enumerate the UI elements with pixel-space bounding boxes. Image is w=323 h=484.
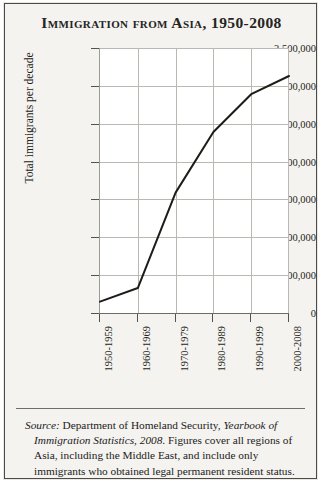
figure-panel: Immigration from Asia, 1950-2008 0500,00… — [4, 3, 317, 479]
x-axis-tick-mark — [212, 314, 213, 322]
x-axis-tick-mark — [250, 314, 251, 322]
y-axis-tick-mark — [91, 124, 99, 125]
x-axis-tick-mark — [175, 314, 176, 322]
y-axis-tick-mark — [91, 313, 99, 314]
chart-title: Immigration from Asia, 1950-2008 — [5, 14, 318, 32]
y-axis-label: Total immigrants per decade — [23, 28, 35, 208]
y-axis-tick-mark — [91, 199, 99, 200]
x-axis-tick-label: 1960-1969 — [141, 326, 152, 372]
plot-area — [99, 48, 289, 314]
y-axis-tick-mark — [91, 48, 99, 49]
y-axis-tick-mark — [91, 237, 99, 238]
source-text-1: Department of Homeland Security, — [60, 419, 224, 431]
series-polyline — [100, 76, 289, 302]
y-axis-tick-mark — [91, 275, 99, 276]
x-axis-tick-label: 2000-2008 — [292, 326, 303, 372]
y-axis-tick-mark — [91, 162, 99, 163]
data-series-line — [100, 48, 289, 313]
x-axis-tick-mark — [99, 314, 100, 322]
x-axis-tick-label: 1950-1959 — [103, 326, 114, 372]
x-axis-tick-mark — [137, 314, 138, 322]
x-axis-tick-mark — [288, 314, 289, 322]
x-axis-tick-label: 1970-1979 — [179, 326, 190, 372]
footer-divider — [16, 408, 305, 409]
y-axis-tick-mark — [91, 86, 99, 87]
x-axis-tick-label: 1990-1999 — [254, 326, 265, 372]
source-label: Source: — [25, 419, 60, 431]
x-axis-tick-label: 1980-1989 — [216, 326, 227, 372]
source-note: Source: Department of Homeland Security,… — [25, 418, 306, 479]
